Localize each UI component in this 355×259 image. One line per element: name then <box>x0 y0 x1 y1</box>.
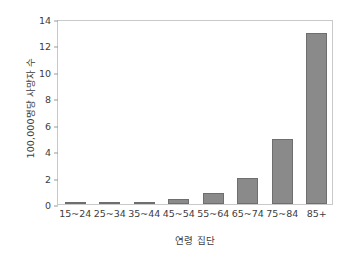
bar-chart-figure: 100,000명당 사망자 수 02468101214 15~2425~3435… <box>0 0 355 259</box>
bar <box>134 202 155 204</box>
bar <box>272 139 293 204</box>
y-axis-tick-mark <box>54 206 58 207</box>
x-axis-tick-label: 25~34 <box>94 209 126 219</box>
x-axis-tick-label: 65~74 <box>232 209 264 219</box>
bar-series <box>58 21 332 204</box>
x-axis-tick-label: 35~44 <box>128 209 160 219</box>
plot-area: 02468101214 15~2425~3435~4445~5455~6465~… <box>57 20 333 205</box>
x-axis-tick-label: 85+ <box>307 209 327 219</box>
x-axis-tick-label: 55~64 <box>197 209 229 219</box>
bar <box>99 202 120 204</box>
x-axis-tick-label: 15~24 <box>59 209 91 219</box>
bar <box>168 199 189 204</box>
bar <box>203 193 224 204</box>
y-axis-title: 100,000명당 사망자 수 <box>24 13 38 203</box>
x-axis-tick-label: 75~84 <box>266 209 298 219</box>
x-axis-title: 연령 집단 <box>57 233 333 247</box>
bar <box>65 202 86 204</box>
bar <box>306 33 327 204</box>
x-axis-tick-label: 45~54 <box>163 209 195 219</box>
bar <box>237 178 258 204</box>
